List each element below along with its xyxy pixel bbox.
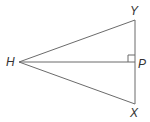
vertex-label-x: X [130, 107, 138, 119]
vertex-label-p: P [138, 58, 146, 70]
vertex-label-h: H [6, 56, 15, 68]
triangle-diagram [0, 0, 150, 122]
vertex-label-y: Y [130, 5, 138, 17]
right-angle-marker [128, 55, 135, 62]
segment-hx [19, 62, 135, 104]
segment-hy [19, 20, 135, 62]
